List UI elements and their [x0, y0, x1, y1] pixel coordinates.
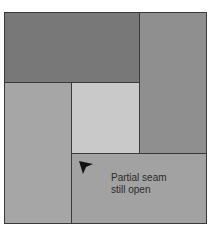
- panel-top-left: [4, 12, 140, 83]
- quilt-diagram: Partial seam still open: [4, 12, 207, 224]
- arrow-pointer-icon: [77, 159, 95, 177]
- panel-left-bottom: [4, 82, 72, 224]
- panel-center: [71, 82, 140, 154]
- annotation-line-1: Partial seam: [111, 172, 167, 184]
- panel-right: [139, 12, 207, 154]
- annotation-line-2: still open: [111, 184, 167, 196]
- annotation-label: Partial seam still open: [111, 172, 167, 196]
